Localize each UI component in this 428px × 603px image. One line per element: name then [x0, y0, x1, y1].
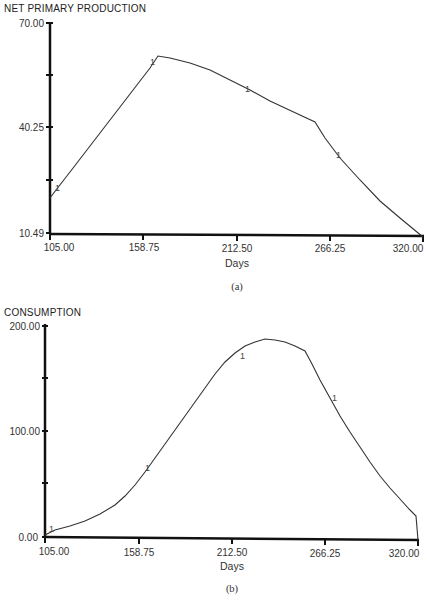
series-marker: 1 — [240, 351, 245, 361]
series-marker: 1 — [49, 524, 54, 534]
series-marker: 1 — [150, 57, 155, 67]
series-marker: 1 — [245, 84, 250, 94]
chart-title: CONSUMPTION — [4, 307, 81, 318]
y-tick-label: 200.00 — [9, 321, 40, 332]
x-axis-label: Days — [225, 257, 249, 269]
figure-caption: (b) — [226, 583, 239, 595]
series-marker: 1 — [145, 463, 150, 473]
chart-consumption: CONSUMPTION 200.00 100.00 0.00 105.00 15… — [4, 307, 420, 595]
series-marker: 1 — [332, 393, 337, 403]
series-marker: 1 — [55, 183, 60, 193]
y-tick-label: 40.25 — [19, 122, 44, 133]
x-tick-label: 105.00 — [39, 546, 70, 557]
x-tick-label: 105.00 — [44, 242, 75, 253]
figure: NET PRIMARY PRODUCTION 70.00 40.25 10.49… — [0, 0, 428, 603]
chart-net-primary-production: NET PRIMARY PRODUCTION 70.00 40.25 10.49… — [4, 3, 424, 293]
x-tick-label: 212.50 — [222, 243, 253, 254]
y-tick-label: 10.49 — [19, 228, 44, 239]
y-tick-label: 70.00 — [19, 18, 44, 29]
x-tick-label: 158.75 — [124, 547, 155, 558]
x-axis-label: Days — [220, 560, 244, 572]
series-line — [45, 339, 418, 540]
x-tick-label: 320.00 — [389, 548, 420, 559]
chart-title: NET PRIMARY PRODUCTION — [4, 3, 146, 14]
series-marker: 1 — [336, 150, 341, 160]
x-tick-label: 266.25 — [310, 548, 341, 559]
figure-caption: (a) — [231, 281, 243, 293]
series-line — [50, 56, 423, 237]
x-tick-label: 158.75 — [129, 242, 160, 253]
x-tick-label: 320.00 — [393, 243, 424, 254]
x-tick-label: 266.25 — [315, 243, 346, 254]
y-tick-label: 0.00 — [19, 532, 39, 543]
y-tick-label: 100.00 — [9, 426, 40, 437]
x-tick-label: 212.50 — [217, 547, 248, 558]
